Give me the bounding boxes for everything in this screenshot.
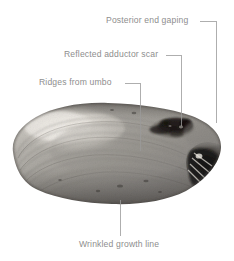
- leader-posterior-end-gaping: [200, 22, 217, 124]
- label-reflected-adductor-scar: Reflected adductor scar: [64, 49, 158, 60]
- shell-body: [0, 90, 234, 220]
- posterior-gape-region: [186, 142, 230, 189]
- label-ridges-from-umbo: Ridges from umbo: [39, 77, 112, 88]
- leader-ridges-from-umbo: [125, 84, 141, 152]
- leader-lines: [0, 0, 234, 261]
- anatomy-figure: Posterior end gaping Reflected adductor …: [0, 0, 234, 261]
- shell-speckles: [58, 109, 162, 193]
- label-wrinkled-growth-line: Wrinkled growth line: [79, 239, 159, 250]
- growth-ridges-fine: [18, 122, 192, 193]
- growth-ridges: [16, 117, 193, 196]
- adductor-scar-region: [150, 117, 196, 139]
- leader-reflected-adductor-scar: [166, 56, 182, 127]
- specimen-photo: [0, 0, 234, 261]
- label-posterior-end-gaping: Posterior end gaping: [106, 15, 188, 26]
